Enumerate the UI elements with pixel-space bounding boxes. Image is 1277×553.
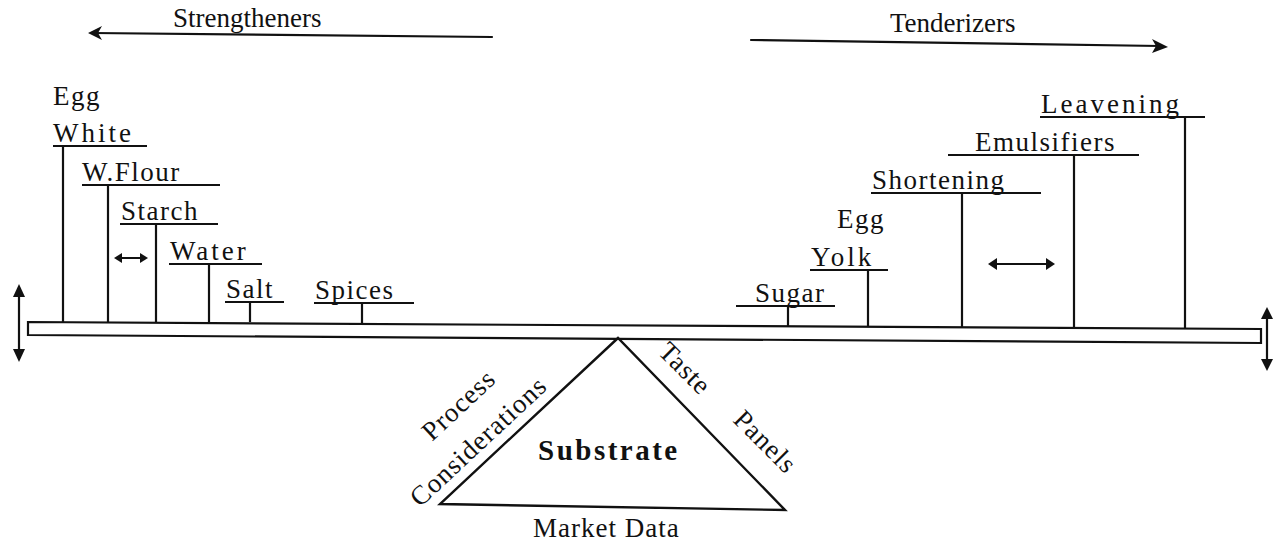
- ingredient-label: White: [53, 118, 134, 148]
- ingredient-sugar: Sugar: [736, 278, 835, 326]
- ingredient-label: Salt: [226, 274, 274, 304]
- ingredient-line1: Egg: [837, 204, 885, 234]
- ingredient-label: Yolk: [811, 242, 874, 272]
- arrow-right-icon: [751, 39, 1168, 53]
- vertical-double-arrow-icon: [13, 284, 25, 362]
- ingredient-label: Shortening: [872, 165, 1006, 195]
- panels-label: Panels: [728, 404, 803, 479]
- taste-label: Taste: [653, 336, 718, 401]
- ingredient-spices: Spices: [314, 275, 414, 323]
- strengtheners-header: Strengtheners: [88, 3, 492, 40]
- vertical-double-arrow-icon: [1261, 307, 1273, 371]
- fulcrum-left-label: Process Considerations: [404, 363, 553, 512]
- substrate-label: Substrate: [538, 434, 680, 466]
- horizontal-double-arrow-icon: [114, 253, 148, 263]
- balance-diagram: Strengtheners Tenderizers Egg White: [0, 0, 1277, 553]
- tenderizers-label: Tenderizers: [890, 8, 1016, 38]
- market-data-label: Market Data: [533, 513, 680, 543]
- ingredient-line1: Egg: [53, 81, 101, 111]
- balance-beam: [28, 322, 1261, 343]
- ingredient-shortening: Shortening: [871, 165, 1041, 327]
- ingredient-label: Water: [170, 236, 249, 266]
- ingredient-label: Leavening: [1041, 89, 1182, 119]
- ingredient-label: Emulsifiers: [975, 127, 1116, 157]
- ingredient-label: Sugar: [755, 278, 826, 308]
- ingredient-label: W.Flour: [82, 157, 181, 187]
- tenderizers-header: Tenderizers: [751, 8, 1168, 53]
- horizontal-double-arrow-icon: [988, 258, 1055, 270]
- ingredient-label: Starch: [121, 196, 199, 226]
- ingredient-salt: Salt: [225, 274, 284, 322]
- ingredient-emulsifiers: Emulsifiers: [948, 127, 1139, 328]
- ingredient-label: Spices: [315, 275, 395, 305]
- strengtheners-label: Strengtheners: [173, 3, 321, 33]
- ingredient-leavening: Leavening: [1040, 89, 1205, 329]
